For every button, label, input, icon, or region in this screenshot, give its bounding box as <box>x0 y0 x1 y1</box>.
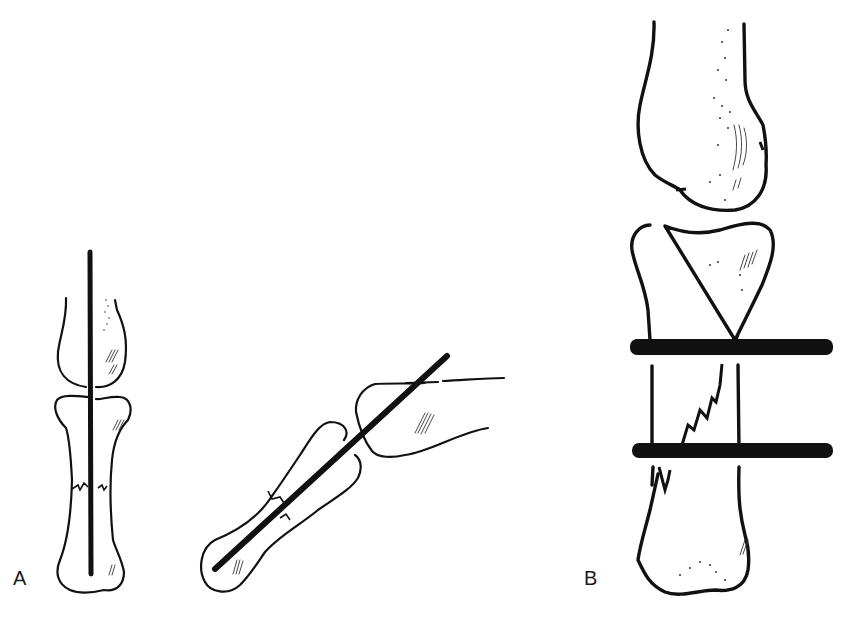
k-wire-oblique <box>215 356 447 569</box>
proximal-phalanx-head <box>638 22 766 210</box>
shading <box>709 29 747 201</box>
k-wire-transverse-upper <box>630 339 833 355</box>
fracture-line <box>659 467 670 490</box>
panel-label-a: A <box>13 567 26 590</box>
k-wire-transverse-lower <box>632 443 833 458</box>
shading <box>103 299 118 374</box>
panel-label-b: B <box>584 567 597 590</box>
illustration-canvas <box>0 0 863 623</box>
k-wire-longitudinal <box>90 252 91 574</box>
fracture-line <box>682 364 722 445</box>
figure: A B <box>0 0 863 623</box>
panel-a-lateral-view <box>201 356 504 592</box>
middle-phalanx <box>632 223 774 594</box>
panel-b-frontal-view <box>630 22 833 594</box>
panel-a-frontal-view <box>55 252 130 593</box>
